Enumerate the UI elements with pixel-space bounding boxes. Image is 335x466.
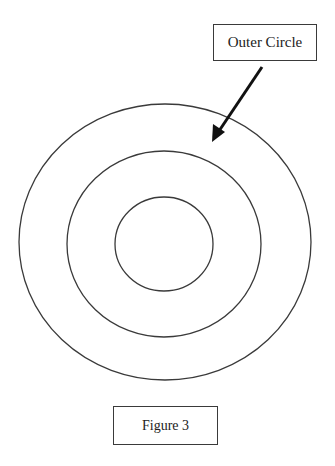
- figure-caption-text: Figure 3: [142, 418, 189, 434]
- concentric-circles-diagram: [0, 0, 335, 466]
- arrow-icon: [212, 67, 262, 142]
- middle-circle: [67, 151, 261, 337]
- outer-circle-label: Outer Circle: [213, 24, 317, 61]
- figure-caption: Figure 3: [113, 406, 218, 445]
- outer-circle-label-text: Outer Circle: [228, 34, 303, 51]
- outer-circle: [19, 104, 311, 380]
- inner-circle: [115, 197, 213, 291]
